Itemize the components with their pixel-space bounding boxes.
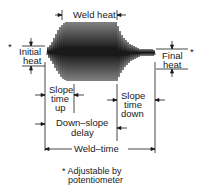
- asterisk-initial: *: [8, 42, 12, 52]
- weld-time-label: Weld–time: [74, 144, 119, 154]
- downslope-delay-line2: delay: [71, 128, 94, 138]
- final-heat-label-line2: heat: [163, 60, 182, 70]
- footnote-line2: potentiometer: [68, 175, 123, 185]
- slope-up-line3: up: [55, 103, 66, 113]
- dimension-lines: [22, 10, 188, 153]
- slope-down-line3: down: [121, 109, 144, 119]
- current-waveform: [47, 22, 155, 81]
- weld-heat-label: Weld heat: [73, 10, 116, 20]
- weld-schedule-diagram: [0, 0, 200, 187]
- initial-heat-label-line2: heat: [23, 56, 42, 66]
- asterisk-final: *: [190, 47, 194, 57]
